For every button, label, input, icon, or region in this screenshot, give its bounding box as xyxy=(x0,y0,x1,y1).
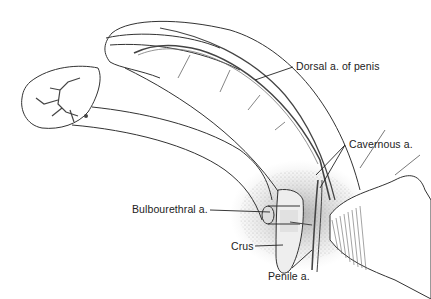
label-crus: Crus xyxy=(231,240,254,252)
pelvis xyxy=(330,130,431,299)
label-penile-artery: Penile a. xyxy=(268,270,310,282)
label-dorsal-artery: Dorsal a. of penis xyxy=(296,60,380,72)
glans xyxy=(22,66,100,128)
leader-dorsal xyxy=(255,67,293,80)
anatomy-diagram: Dorsal a. of penis Cavernous a. Bulboure… xyxy=(0,0,431,299)
label-cavernous-artery: Cavernous a. xyxy=(349,138,413,150)
label-bulbourethral-artery: Bulbourethral a. xyxy=(132,203,208,215)
